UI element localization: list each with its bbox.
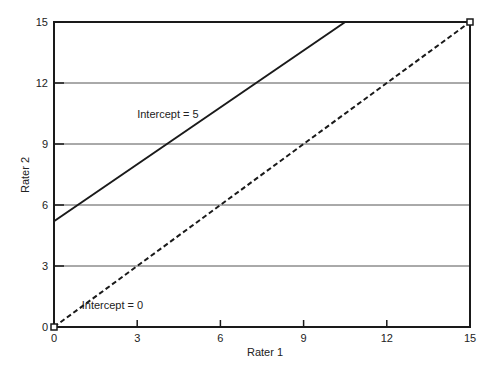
y-tick-label: 6 — [42, 199, 48, 211]
y-tick-label: 9 — [42, 138, 48, 150]
x-tick-label: 6 — [217, 332, 223, 344]
y-tick-label: 0 — [42, 321, 48, 333]
annotations: Intercept = 5Intercept = 0 — [82, 108, 199, 311]
y-tick-label: 15 — [36, 16, 48, 28]
y-axis-title: Rater 2 — [19, 157, 31, 193]
x-axis-title: Rater 1 — [247, 346, 283, 358]
series-layer — [54, 22, 470, 327]
y-tick-labels: 03691215 — [36, 16, 48, 333]
x-tick-labels: 03691215 — [51, 332, 476, 344]
x-tick-label: 15 — [464, 332, 476, 344]
x-tick-label: 3 — [134, 332, 140, 344]
square-marker-icon — [467, 19, 473, 25]
annotation-label: Intercept = 5 — [137, 108, 198, 120]
x-tick-label: 12 — [381, 332, 393, 344]
y-tick-label: 12 — [36, 77, 48, 89]
dashed-line-intercept-0 — [54, 22, 470, 327]
square-marker-icon — [51, 324, 57, 330]
solid-line-intercept-5 — [54, 22, 345, 221]
x-tick-label: 9 — [301, 332, 307, 344]
x-tick-label: 0 — [51, 332, 57, 344]
annotation-label: Intercept = 0 — [82, 299, 143, 311]
chart: 03691215 03691215 Intercept = 5Intercept… — [0, 0, 494, 374]
y-tick-label: 3 — [42, 260, 48, 272]
